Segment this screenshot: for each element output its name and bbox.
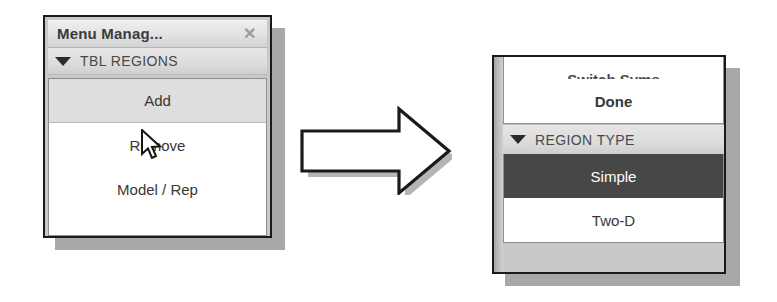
region-type-panel-body: Switch Syms Done REGION TYPE Simple Two-… — [503, 57, 724, 272]
list-item-label: Model / Rep — [117, 181, 198, 198]
list-item-done[interactable]: Done — [504, 79, 723, 123]
list-item-simple[interactable]: Simple — [504, 154, 723, 198]
list-item-switch-syms[interactable]: Switch Syms — [504, 57, 723, 79]
region-type-list: Simple Two-D — [503, 154, 724, 243]
group-header-region-type[interactable]: REGION TYPE — [503, 124, 724, 154]
group-header-label: TBL REGIONS — [80, 53, 178, 69]
panel-title: Menu Manag... — [57, 25, 163, 42]
triangle-down-icon — [510, 135, 526, 144]
list-item-remove[interactable]: Remove — [49, 123, 266, 167]
group-header-tbl-regions[interactable]: TBL REGIONS — [48, 48, 267, 75]
panel-left-strip — [494, 57, 503, 272]
close-icon[interactable]: ✕ — [240, 26, 259, 42]
list-item-add[interactable]: Add — [49, 79, 266, 123]
list-item-label: Add — [144, 92, 171, 109]
list-item-label: Switch Syms — [567, 71, 660, 79]
menu-manager-titlebar: Menu Manag... ✕ — [48, 20, 267, 48]
list-item-label: Simple — [591, 168, 637, 185]
triangle-down-icon — [55, 57, 71, 66]
list-item-label: Done — [595, 93, 633, 110]
menu-list-top: Switch Syms Done — [503, 57, 724, 124]
list-item-two-d[interactable]: Two-D — [504, 198, 723, 242]
list-item-model-rep[interactable]: Model / Rep — [49, 167, 266, 211]
group-header-label: REGION TYPE — [535, 132, 635, 148]
right-block-arrow-icon — [292, 99, 452, 195]
menu-list: Add Remove Model / Rep — [48, 78, 267, 236]
region-type-panel: Switch Syms Done REGION TYPE Simple Two-… — [492, 55, 726, 274]
list-item-label: Two-D — [592, 212, 635, 229]
list-item-label: Remove — [130, 137, 186, 154]
menu-manager-panel: Menu Manag... ✕ TBL REGIONS Add Remove M… — [43, 15, 272, 238]
